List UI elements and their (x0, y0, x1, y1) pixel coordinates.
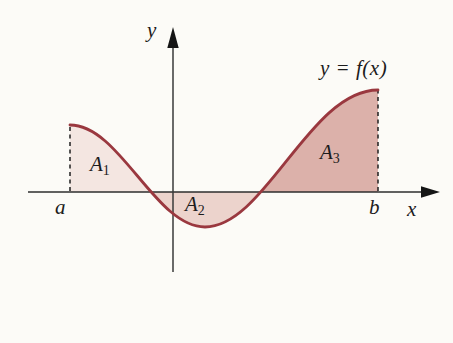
region-label-a1-base: A (90, 152, 103, 176)
curve-equation-label: y = f(x) (320, 58, 387, 79)
region-label-a1: A1 (90, 154, 110, 175)
y-axis-label: y (147, 20, 156, 41)
region-label-a1-sub: 1 (103, 163, 110, 178)
x-axis-arrow-icon (421, 186, 440, 198)
region-label-a2: A2 (185, 194, 205, 215)
region-label-a2-sub: 2 (198, 203, 205, 218)
textbook-figure: y x a b y = f(x) A1 A2 A3 14-1-8 (0, 0, 453, 343)
lower-bound-label-a: a (55, 197, 66, 218)
x-axis-label: x (407, 199, 416, 220)
region-label-a3: A3 (320, 142, 340, 163)
upper-bound-label-b: b (369, 197, 380, 218)
figure-caption: 14-1-8 (0, 286, 453, 326)
region-label-a2-base: A (185, 192, 198, 216)
region-label-a3-base: A (320, 140, 333, 164)
y-axis-arrow-icon (167, 27, 178, 48)
region-label-a3-sub: 3 (333, 151, 340, 166)
